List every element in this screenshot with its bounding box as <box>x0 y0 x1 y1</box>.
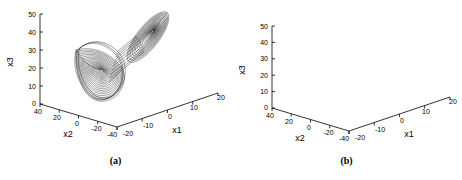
axis-x3-a: 50 40 30 20 10 0 x3 <box>5 11 43 108</box>
tick-x1-0: 0 <box>168 113 172 120</box>
tick-x3-40: 40 <box>28 29 36 36</box>
axis-x2-b: 40 20 0 -20 -40 x2 <box>266 108 349 143</box>
tick-x1-minus10: -10 <box>143 122 153 129</box>
tick-x3-20: 20 <box>260 72 268 79</box>
axis-label-x1: x1 <box>404 129 414 139</box>
axis-x1-a: -20 -10 0 10 20 x1 <box>117 93 225 137</box>
axis-label-x2: x2 <box>63 129 73 139</box>
axis-x3-b: 50 40 30 20 10 0 x3 <box>237 23 275 112</box>
tick-x2-40: 40 <box>266 112 274 119</box>
tick-x2-minus20: -20 <box>91 125 101 132</box>
tick-x3-10: 10 <box>260 88 268 95</box>
tick-x3-10: 10 <box>28 83 36 90</box>
tick-x2-minus40: -40 <box>339 135 349 142</box>
axis-label-x3: x3 <box>5 57 15 67</box>
tick-x3-0: 0 <box>32 100 36 107</box>
plot-b-svg: 50 40 30 20 10 0 x3 40 20 0 -20 -40 <box>231 0 462 180</box>
tick-x2-20: 20 <box>53 114 61 121</box>
tick-x3-50: 50 <box>260 23 268 30</box>
plot-a-svg: 50 40 30 20 10 0 x3 40 20 0 -20 -40 <box>0 0 231 180</box>
tick-x1-minus20: -20 <box>123 130 133 137</box>
tick-x1-10: 10 <box>190 104 198 111</box>
tick-x1-minus20: -20 <box>355 134 365 141</box>
tick-x3-40: 40 <box>260 39 268 46</box>
tick-x1-20: 20 <box>217 94 225 101</box>
tick-x1-10: 10 <box>422 108 430 115</box>
attractor-trajectory <box>75 6 176 101</box>
axis-label-x1: x1 <box>172 125 182 135</box>
axis-x2-a: 40 20 0 -20 -40 x2 <box>34 104 117 139</box>
tick-x2-0: 0 <box>307 124 311 131</box>
tick-x2-minus40: -40 <box>107 131 117 138</box>
tick-x3-30: 30 <box>28 47 36 54</box>
tick-x2-minus20: -20 <box>323 129 333 136</box>
panel-b: 50 40 30 20 10 0 x3 40 20 0 -20 -40 <box>231 0 462 180</box>
axis-label-x3: x3 <box>237 65 247 75</box>
figure-two-panel-phase-portraits: 50 40 30 20 10 0 x3 40 20 0 -20 -40 <box>0 0 462 180</box>
tick-x2-0: 0 <box>75 120 79 127</box>
tick-x3-30: 30 <box>260 55 268 62</box>
tick-x2-40: 40 <box>34 108 42 115</box>
tick-x3-50: 50 <box>28 11 36 18</box>
axis-label-x2: x2 <box>295 133 305 143</box>
axis-x1-b: -20 -10 0 10 20 x1 <box>349 97 457 141</box>
panel-b-caption: (b) <box>231 155 462 166</box>
tick-x3-0: 0 <box>264 104 268 111</box>
tick-x1-0: 0 <box>400 117 404 124</box>
tick-x2-20: 20 <box>285 118 293 125</box>
tick-x1-minus10: -10 <box>375 126 385 133</box>
panel-a-caption: (a) <box>0 155 231 166</box>
tick-x1-20: 20 <box>449 98 457 105</box>
tick-x3-20: 20 <box>28 65 36 72</box>
panel-a: 50 40 30 20 10 0 x3 40 20 0 -20 -40 <box>0 0 231 180</box>
